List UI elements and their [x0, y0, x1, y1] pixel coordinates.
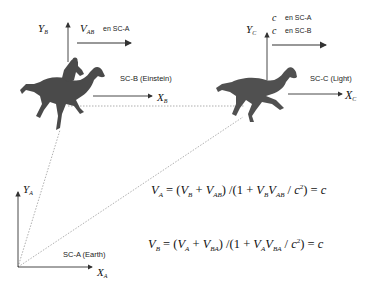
y-axis-c-label: YC — [246, 23, 256, 36]
x-axis-c-label: XC — [345, 88, 356, 103]
sc-a-name: SC-A (Earth) — [63, 250, 106, 259]
vab-label: VAB — [80, 22, 94, 35]
vab-frame-note: en SC-A — [103, 25, 129, 32]
c-symbol-b: c — [272, 25, 276, 36]
equation-va: VA = (VB + VAB) /(1 + VBVAB / c2) = c — [151, 183, 326, 198]
c-frame-note-a: en SC-A — [285, 14, 311, 21]
horse-icon — [216, 67, 297, 122]
horse-rider-icon — [20, 58, 105, 131]
x-axis-a-label: XA — [97, 266, 107, 279]
c-frame-note-b: en SC-B — [285, 27, 311, 34]
y-axis-b-label: YB — [38, 22, 48, 35]
x-axis-b-label: XB — [157, 91, 167, 104]
connector-a-to-b — [18, 130, 60, 267]
y-axis-a-label: YA — [23, 183, 33, 196]
equation-vb: VB = (VA + VBA) /(1 + VAVBA / c2) = c — [148, 237, 323, 252]
c-symbol-a: c — [272, 12, 276, 23]
sc-c-name: SC-C (Light) — [310, 74, 352, 83]
sc-b-name: SC-B (Einstein) — [120, 74, 172, 83]
